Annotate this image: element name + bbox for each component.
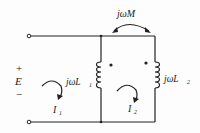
circuit-svg: + E − jωM jωL 1 jωL 2 I 1 I 2 [0, 0, 200, 133]
i2-subscript: 2 [134, 109, 137, 115]
junction-bottom [100, 121, 103, 124]
mutual-arrowhead-right [145, 27, 151, 33]
mutual-arrowhead-left [112, 27, 118, 33]
i1-label: I [52, 104, 57, 115]
polarity-dot-l2 [144, 61, 147, 64]
source-plus: + [16, 62, 22, 74]
junction-top [100, 35, 103, 38]
l1-label: jωL [64, 77, 81, 87]
i2-arrowhead [133, 97, 139, 103]
inductor-l1-coil [97, 62, 102, 88]
mutual-label: jωM [115, 8, 136, 19]
circuit-diagram: + E − jωM jωL 1 jωL 2 I 1 I 2 [0, 0, 200, 133]
l2-subscript: 2 [187, 79, 190, 85]
i2-label: I [127, 103, 132, 114]
l2-label: jωL [162, 74, 179, 84]
polarity-dot-l1 [109, 63, 112, 66]
inductor-l2-coil [155, 62, 160, 88]
current-i1-arc [42, 81, 62, 97]
terminal-bottom [27, 120, 31, 124]
i1-subscript: 1 [59, 110, 62, 116]
i1-arrowhead [57, 94, 63, 100]
l1-subscript: 1 [89, 82, 92, 88]
source-label: E [14, 75, 22, 87]
terminal-top [27, 34, 31, 38]
mutual-arc [114, 25, 149, 32]
source-minus: − [16, 88, 22, 100]
